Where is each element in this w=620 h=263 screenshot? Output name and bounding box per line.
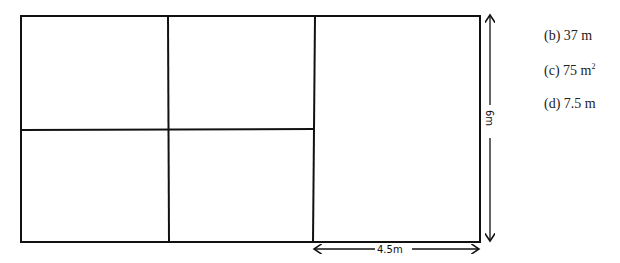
- height-dimension-label: 6m: [484, 110, 495, 126]
- answer-d: (d) 7.5 m: [544, 96, 596, 112]
- floor-plan-diagram: 4.5m 6m: [0, 0, 620, 263]
- width-dimension-label: 4.5m: [377, 244, 403, 255]
- answer-c: (c) 75 m2: [544, 62, 595, 79]
- answer-b: (b) 37 m: [544, 28, 592, 44]
- divider-horizontal: [21, 129, 314, 130]
